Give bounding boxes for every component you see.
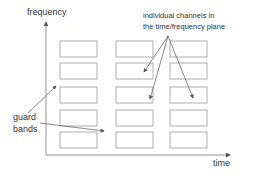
guard-annotation-line2: bands bbox=[13, 124, 38, 134]
guard-annotation-line1: guard bbox=[13, 112, 36, 122]
channels-annotation-line1: individual channels in bbox=[143, 11, 214, 21]
guard-band-arrows bbox=[28, 86, 104, 131]
channel-grid bbox=[60, 41, 207, 148]
channels-annotation-line2: the time/frequency plane bbox=[143, 22, 225, 32]
channel-arrows bbox=[144, 36, 193, 99]
y-axis-label: frequency bbox=[27, 7, 67, 17]
x-axis-label: time bbox=[213, 158, 230, 168]
